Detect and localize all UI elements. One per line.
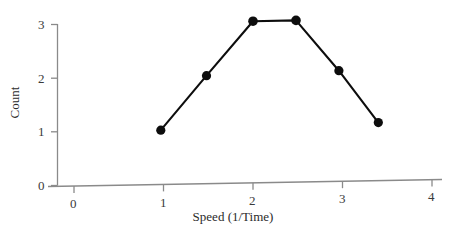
y-tick-label-3: 3	[38, 18, 45, 31]
data-point-marker	[291, 16, 301, 26]
axes	[48, 24, 442, 187]
x-tick-label-3: 3	[339, 192, 346, 205]
data-point-marker	[374, 118, 383, 127]
x-tick-label-1: 1	[160, 196, 167, 209]
x-tick-label-4: 4	[428, 190, 435, 203]
data-series-count-vs-speed	[156, 16, 383, 135]
series-line	[161, 20, 378, 130]
y-tick-label-2: 2	[38, 72, 45, 85]
data-point-marker	[202, 71, 211, 80]
x-axis-line	[48, 180, 442, 187]
y-tick-label-0: 0	[38, 179, 45, 192]
data-point-marker	[334, 66, 343, 75]
x-axis-ticks	[74, 180, 432, 193]
data-point-marker	[156, 126, 165, 135]
y-axis-title: Count	[8, 73, 21, 133]
x-axis-title: Speed (1/Time)	[0, 210, 466, 223]
data-point-marker	[248, 16, 258, 26]
y-axis-ticks	[51, 25, 58, 186]
y-tick-label-1: 1	[38, 125, 45, 138]
x-tick-label-0: 0	[70, 197, 77, 210]
x-tick-label-2: 2	[249, 194, 256, 207]
chart-figure: 3 2 1 0 0 1 2 3 4 Speed (1/Time) Count	[0, 0, 466, 242]
